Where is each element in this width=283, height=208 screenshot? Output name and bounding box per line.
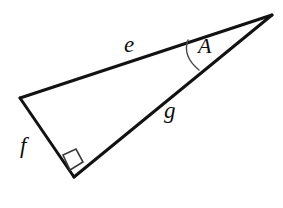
angle-label-A: A: [198, 35, 211, 57]
diagram-background: [0, 0, 283, 208]
geometry-diagram: e A g f: [0, 0, 283, 208]
side-label-f: f: [20, 134, 26, 157]
triangle-figure: [0, 0, 283, 208]
side-label-e: e: [124, 33, 134, 56]
side-label-g: g: [164, 99, 176, 122]
